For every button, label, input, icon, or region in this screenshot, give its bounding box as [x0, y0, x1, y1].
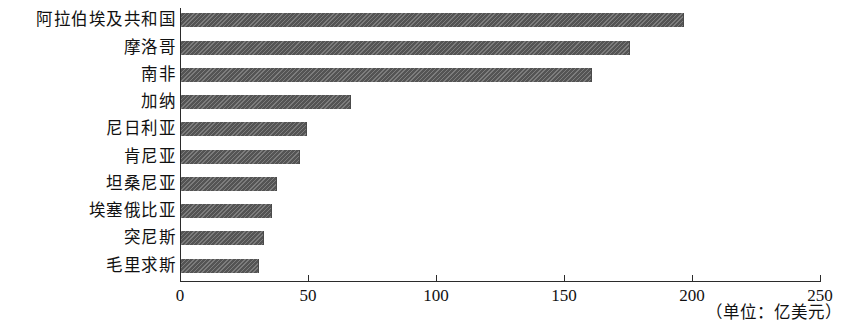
category-label: 毛里求斯: [0, 257, 176, 274]
category-label: 肯尼亚: [0, 148, 176, 165]
bar: [181, 259, 259, 273]
x-axis-tick-label: 200: [679, 286, 705, 305]
category-label: 加纳: [0, 93, 176, 110]
bar: [181, 231, 264, 245]
category-label: 尼日利亚: [0, 120, 176, 137]
x-axis-tick: [564, 275, 565, 282]
x-axis-tick: [436, 275, 437, 282]
x-axis-tick: [820, 275, 821, 282]
x-axis-tick: [180, 275, 181, 282]
x-axis-tick-label: 0: [176, 286, 185, 305]
bar: [181, 41, 630, 55]
category-axis-labels: 阿拉伯埃及共和国 摩洛哥 南非 加纳 尼日利亚 肯尼亚 坦桑尼亚 埃塞俄比亚 突…: [0, 0, 176, 290]
bar: [181, 122, 307, 136]
bar-chart: 阿拉伯埃及共和国 摩洛哥 南非 加纳 尼日利亚 肯尼亚 坦桑尼亚 埃塞俄比亚 突…: [0, 0, 850, 330]
category-label: 埃塞俄比亚: [0, 202, 176, 219]
category-label: 坦桑尼亚: [0, 175, 176, 192]
category-label: 突尼斯: [0, 229, 176, 246]
category-label: 阿拉伯埃及共和国: [0, 11, 176, 28]
plot-area: 0 50 100 150 200 250: [180, 0, 850, 290]
x-axis-tick: [692, 275, 693, 282]
bar: [181, 13, 684, 27]
bar: [181, 150, 300, 164]
x-axis-line: [180, 281, 821, 282]
x-axis-tick-label: 150: [551, 286, 577, 305]
bar: [181, 95, 351, 109]
x-axis-tick: [308, 275, 309, 282]
x-axis-tick-label: 50: [300, 286, 317, 305]
bar: [181, 204, 272, 218]
category-label: 摩洛哥: [0, 39, 176, 56]
bar: [181, 68, 592, 82]
unit-caption: （单位：亿美元）: [706, 303, 842, 323]
bar: [181, 177, 277, 191]
x-axis-tick-label: 100: [423, 286, 449, 305]
category-label: 南非: [0, 66, 176, 83]
